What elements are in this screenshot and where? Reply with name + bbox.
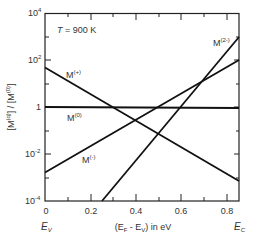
line-m-zero [45,107,239,108]
line-m-plus [45,68,239,182]
ec-label: EC [234,221,246,233]
x-axis-label: (EF - EV) in eV [115,222,172,233]
label-m-2minus: M(2-) [213,37,230,48]
svg-text:10-2: 10-2 [25,148,41,159]
svg-text:0.2: 0.2 [85,206,98,216]
label-m-zero: M(0) [67,112,82,123]
svg-text:0.4: 0.4 [130,206,143,216]
chart: 104 102 1 10-2 10-4 0 0.2 0.4 0.6 0.8 EV… [0,0,254,241]
line-m-2minus [102,37,239,201]
temperature-annotation: T = 900 K [57,25,96,35]
svg-text:1: 1 [36,102,41,112]
label-m-plus: M(+) [66,69,81,80]
svg-text:0.8: 0.8 [221,206,234,216]
svg-text:102: 102 [28,54,42,65]
svg-text:104: 104 [28,7,42,18]
y-axis-label: [M(q)] / [M(0)] [5,83,16,130]
ev-label: EV [41,221,53,233]
x-tick-labels: 0 0.2 0.4 0.6 0.8 [43,206,233,216]
svg-text:0: 0 [43,206,48,216]
y-tick-labels: 104 102 1 10-2 10-4 [25,7,42,206]
label-m-minus: M(-) [82,154,96,165]
svg-text:10-4: 10-4 [25,195,41,206]
svg-text:0.6: 0.6 [175,206,188,216]
